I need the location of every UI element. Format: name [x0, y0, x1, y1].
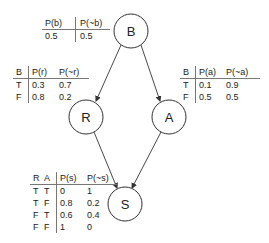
cpt-table-a: B P(a) P(~a) T 0.1 0.9 F 0.5 0.5 [180, 66, 260, 103]
cpt-header: P(~b) [76, 17, 111, 30]
cpt-cell: 0.4 [84, 209, 117, 221]
cpt-cell: T [41, 209, 57, 221]
cpt-cell: 0.1 [196, 79, 224, 92]
cpt-cell: F [30, 221, 41, 233]
cpt-header: A [41, 172, 57, 185]
cpt-cell: 0.2 [84, 197, 117, 209]
cpt-cell: F [30, 209, 41, 221]
edge-b-to-r [96, 45, 121, 101]
cpt-cell: F [41, 221, 57, 233]
cpt-header: P(r) [29, 66, 57, 79]
cpt-table-r: B P(r) P(~r) T 0.3 0.7 F 0.8 0.2 [13, 66, 89, 103]
cpt-cell: 0.9 [223, 79, 260, 92]
cpt-header: P(~a) [223, 66, 260, 79]
cpt-cell: 1 [84, 185, 117, 198]
cpt-cell: 0.8 [29, 91, 57, 103]
cpt-cell: T [13, 79, 29, 92]
cpt-cell: 1 [57, 221, 85, 233]
node-r: R [69, 100, 103, 134]
cpt-cell: 0.5 [42, 30, 76, 43]
cpt-header: B [180, 66, 196, 79]
cpt-header: P(b) [42, 17, 76, 30]
cpt-cell: 0.5 [223, 91, 260, 103]
cpt-cell: 0.3 [29, 79, 57, 92]
cpt-header: R [30, 172, 41, 185]
cpt-cell: F [13, 91, 29, 103]
cpt-cell: 0.6 [57, 209, 85, 221]
cpt-header: P(~s) [84, 172, 117, 185]
cpt-table-s: R A P(s) P(~s) T T 0 1 T F 0.8 0.2 F T 0… [30, 172, 117, 233]
cpt-cell: T [30, 197, 41, 209]
cpt-header: B [13, 66, 29, 79]
cpt-cell: 0.8 [57, 197, 85, 209]
cpt-cell: 0 [57, 185, 85, 198]
edge-b-to-a [141, 45, 160, 101]
edge-a-to-s [132, 132, 161, 188]
cpt-cell: F [180, 91, 196, 103]
cpt-cell: 0.2 [56, 91, 89, 103]
cpt-cell: 0 [84, 221, 117, 233]
cpt-cell: T [30, 185, 41, 198]
cpt-cell: 0.7 [56, 79, 89, 92]
node-b-label: B [127, 24, 136, 39]
node-a: A [152, 100, 186, 134]
cpt-header: P(~r) [56, 66, 89, 79]
node-a-label: A [165, 110, 174, 125]
node-s-label: S [121, 197, 130, 212]
cpt-header: P(s) [57, 172, 85, 185]
cpt-cell: 0.5 [196, 91, 224, 103]
cpt-cell: T [180, 79, 196, 92]
node-b: B [114, 14, 148, 48]
cpt-cell: F [41, 197, 57, 209]
node-r-label: R [81, 110, 90, 125]
cpt-header: P(a) [196, 66, 224, 79]
cpt-cell: T [41, 185, 57, 198]
cpt-table-b: P(b) P(~b) 0.5 0.5 [42, 17, 110, 42]
cpt-cell: 0.5 [76, 30, 111, 43]
